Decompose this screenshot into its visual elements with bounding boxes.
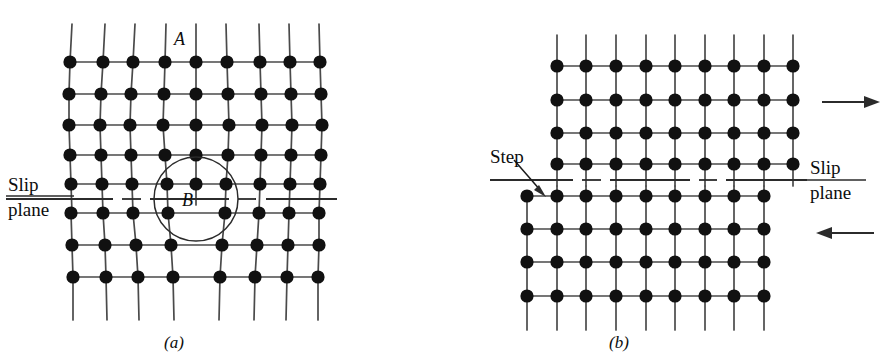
dislocation-core-label: B	[182, 190, 193, 210]
panel-b-slip-label-top: Slip	[810, 157, 841, 178]
panel-b-slip-label-bottom: plane	[810, 182, 851, 203]
panel-b-caption: (b)	[609, 333, 629, 352]
panel-a-slip-label-bottom: plane	[8, 199, 49, 220]
bottom-shear-arrow	[816, 227, 874, 239]
extra-half-plane-label: A	[173, 29, 186, 49]
panel-a-caption: (a)	[164, 333, 184, 352]
figure-canvas: Slip plane A B (a) Step Slip plane (b)	[0, 0, 896, 363]
step-label: Step	[490, 146, 524, 167]
panel-a-slip-label-top: Slip	[8, 174, 39, 195]
top-shear-arrow	[822, 96, 880, 108]
panel-a-vertical-planes-lower	[71, 213, 319, 320]
panel-a-lattice	[6, 24, 337, 320]
figure-root: Slip plane A B (a) Step Slip plane (b)	[0, 0, 896, 363]
